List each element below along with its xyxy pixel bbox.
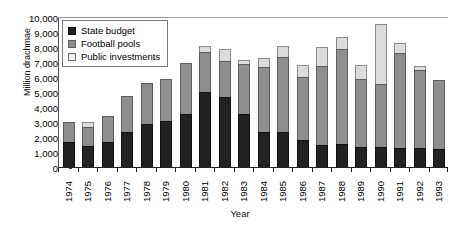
chart-legend: State budget Football pools Public inves… (62, 20, 168, 67)
y-axis-tick-label: 9,000 (14, 28, 58, 39)
bar-stack (160, 79, 172, 168)
bar-stack (219, 49, 231, 168)
x-axis-tick-label: 1976 (101, 175, 112, 209)
bar-segment-state-budget (433, 149, 445, 167)
x-axis-tick-label: 1992 (413, 175, 424, 209)
bar-segment-state-budget (297, 140, 309, 167)
bar-segment-football-pools (336, 49, 348, 144)
bar-segment-football-pools (160, 79, 172, 121)
x-axis-tick-label: 1974 (62, 175, 73, 209)
bar-stack (277, 46, 289, 168)
x-axis-title: Year (0, 208, 456, 219)
bar-segment-state-budget (277, 132, 289, 167)
bar-segment-public-investments (297, 65, 309, 77)
bar-stack (180, 63, 192, 167)
bar-stack (394, 43, 406, 168)
legend-label-football-pools: Football pools (81, 38, 140, 49)
y-axis-tick-label: 6,000 (14, 73, 58, 84)
legend-item-state-budget: State budget (68, 24, 160, 37)
x-axis-tick-label: 1986 (296, 175, 307, 209)
bar-segment-state-budget (375, 147, 387, 167)
bar-segment-football-pools (141, 83, 153, 124)
bar-segment-football-pools (102, 116, 114, 142)
bar-segment-state-budget (180, 114, 192, 167)
bar-segment-state-budget (63, 142, 75, 167)
bar-segment-football-pools (375, 84, 387, 147)
bar-segment-state-budget (316, 145, 328, 167)
x-axis-tick-label: 1990 (374, 175, 385, 209)
bar-stack (414, 66, 426, 167)
bar-stack (141, 83, 153, 167)
bar-segment-public-investments (316, 47, 328, 66)
bar-segment-football-pools (316, 66, 328, 146)
bar-stack (375, 24, 387, 167)
bar-segment-football-pools (394, 53, 406, 148)
bar-segment-state-budget (219, 97, 231, 168)
bar-segment-state-budget (258, 132, 270, 167)
y-axis-tick-label: 0 (14, 163, 58, 174)
bar-segment-football-pools (433, 80, 445, 149)
bar-segment-public-investments (336, 37, 348, 49)
bar-stack (316, 47, 328, 167)
x-axis-title-text: Year (230, 208, 249, 219)
x-axis-tick-label: 1988 (335, 175, 346, 209)
bar-segment-public-investments (219, 49, 231, 61)
bar-segment-football-pools (121, 96, 133, 132)
bar-stack (199, 46, 211, 168)
bar-segment-football-pools (199, 52, 211, 93)
bar-segment-football-pools (414, 70, 426, 149)
bar-stack (433, 80, 445, 167)
y-axis-tick-label: 1,000 (14, 148, 58, 159)
y-axis-tick-label: 5,000 (14, 88, 58, 99)
x-axis-tick-label: 1989 (355, 175, 366, 209)
y-axis-tick-labels: 10,0009,0008,0007,0006,0005,0004,0003,00… (14, 0, 58, 226)
bar-segment-football-pools (180, 63, 192, 114)
bar-segment-state-budget (82, 146, 94, 167)
bar-segment-state-budget (238, 114, 250, 167)
bar-segment-football-pools (355, 79, 367, 147)
bar-stack (297, 65, 309, 167)
bar-stack (336, 37, 348, 167)
legend-label-public-investments: Public investments (81, 51, 160, 62)
bar-segment-public-investments (355, 65, 367, 79)
bar-segment-football-pools (238, 64, 250, 114)
bar-segment-state-budget (141, 124, 153, 168)
x-axis-tick-label: 1981 (199, 175, 210, 209)
bar-stack (238, 60, 250, 167)
bar-stack (63, 122, 75, 167)
legend-swatch-public-investments-icon (68, 53, 76, 61)
bar-segment-state-budget (102, 142, 114, 167)
x-axis-tick-label: 1980 (179, 175, 190, 209)
x-axis-tick-label: 1977 (121, 175, 132, 209)
bar-stack (82, 122, 94, 167)
bar-segment-state-budget (394, 148, 406, 168)
bar-stack (355, 65, 367, 167)
bar-segment-public-investments (394, 43, 406, 54)
legend-swatch-state-budget-icon (68, 27, 76, 35)
bar-segment-state-budget (121, 132, 133, 167)
legend-swatch-football-pools-icon (68, 40, 76, 48)
y-axis-tick-label: 3,000 (14, 118, 58, 129)
y-axis-tick-label: 7,000 (14, 58, 58, 69)
bar-segment-public-investments (375, 24, 387, 84)
x-axis-tick-label: 1984 (257, 175, 268, 209)
y-axis-tick-label: 10,000 (14, 13, 58, 24)
bar-segment-state-budget (199, 92, 211, 167)
x-axis-tick-label: 1982 (218, 175, 229, 209)
bar-segment-football-pools (277, 57, 289, 132)
bar-segment-state-budget (160, 121, 172, 168)
bar-stack (121, 96, 133, 167)
x-axis-tick-label: 1978 (140, 175, 151, 209)
legend-item-public-investments: Public investments (68, 50, 160, 63)
bar-segment-football-pools (297, 77, 309, 140)
y-axis-tick-label: 8,000 (14, 43, 58, 54)
bar-segment-football-pools (82, 127, 94, 146)
bar-segment-football-pools (258, 67, 270, 132)
x-axis-tick-label: 1991 (394, 175, 405, 209)
x-axis-tick-label: 1983 (238, 175, 249, 209)
x-axis-tick-labels: 1974197519761977197819791980198119821983… (58, 172, 448, 206)
y-axis-tick-label: 2,000 (14, 133, 58, 144)
bar-segment-state-budget (355, 147, 367, 167)
bar-segment-football-pools (63, 122, 75, 142)
x-axis-tick-label: 1985 (277, 175, 288, 209)
